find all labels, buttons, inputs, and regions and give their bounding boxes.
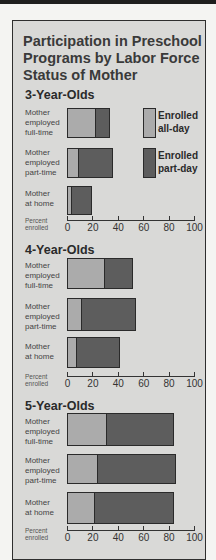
row-label-line: full-time — [25, 281, 67, 291]
row-label-line: Mother — [25, 342, 67, 352]
axis-title-line: Percent — [25, 373, 65, 380]
bar-segment-all-day — [68, 109, 96, 137]
legend-part-day-line2: part-day — [158, 162, 198, 175]
row-label: Motherat home — [25, 498, 67, 518]
row-label-line: full-time — [25, 437, 67, 447]
row-label: Motherat home — [25, 189, 67, 209]
row-label-line: employed — [25, 271, 67, 281]
chart-title: Participation in Preschool Programs by L… — [23, 33, 203, 84]
legend-part-day-line1: Enrolled — [158, 149, 198, 162]
bar-segment-all-day — [68, 149, 79, 177]
bar-segment-all-day — [68, 493, 95, 523]
row-label-line: full-time — [25, 128, 67, 138]
bar-segment-part-day — [72, 187, 91, 214]
x-axis-tick — [92, 372, 93, 377]
row-label-line: Mother — [25, 261, 67, 271]
row-label-line: employed — [25, 427, 67, 437]
bar-segment-all-day — [68, 259, 105, 288]
x-axis-tick — [169, 526, 170, 531]
x-axis-tick-label: 100 — [186, 222, 203, 233]
axis-title: Percentenrolled — [25, 217, 65, 231]
axis-title-line: Percent — [25, 217, 65, 224]
row-label-line: at home — [25, 508, 67, 518]
row-label-line: Mother — [25, 456, 67, 466]
row-label: Motheremployedpart-time — [25, 456, 67, 486]
x-axis-tick — [194, 372, 195, 377]
stacked-bar — [67, 492, 174, 524]
bar-segment-part-day — [79, 149, 112, 177]
x-axis-tick — [118, 216, 119, 221]
bar-segment-all-day — [68, 299, 82, 330]
x-axis-tick-label: 40 — [113, 378, 124, 389]
bar-segment-part-day — [105, 259, 132, 288]
row-label: Motheremployedfull-time — [25, 261, 67, 291]
x-axis-tick-label: 40 — [113, 532, 124, 543]
row-label: Motheremployedfull-time — [25, 417, 67, 447]
group-heading: 5-Year-Olds — [25, 399, 94, 413]
x-axis-tick — [92, 526, 93, 531]
row-label-line: employed — [25, 466, 67, 476]
stacked-bar — [67, 413, 174, 446]
row-label: Motherat home — [25, 342, 67, 362]
top-rule — [0, 0, 216, 4]
row-label: Motheremployedpart-time — [25, 148, 67, 178]
x-axis-tick — [143, 526, 144, 531]
group-heading: 4-Year-Olds — [25, 243, 94, 257]
bar-segment-part-day — [77, 338, 119, 367]
legend-swatch-part-day — [143, 148, 156, 178]
x-axis-tick-label: 100 — [186, 378, 203, 389]
stacked-bar — [67, 337, 120, 368]
x-axis-tick-label: 0 — [65, 378, 71, 389]
x-axis-tick-label: 0 — [65, 532, 71, 543]
stacked-bar — [67, 108, 110, 138]
x-axis-tick-label: 80 — [164, 532, 175, 543]
x-axis-tick — [194, 216, 195, 221]
row-label: Motheremployedfull-time — [25, 108, 67, 138]
stacked-bar — [67, 186, 92, 215]
stacked-bar — [67, 148, 113, 178]
legend-all-day-line2: all-day — [158, 122, 198, 135]
x-axis-tick-label: 80 — [164, 222, 175, 233]
bar-segment-part-day — [96, 109, 109, 137]
x-axis-tick-label: 100 — [186, 532, 203, 543]
row-label-line: employed — [25, 312, 67, 322]
legend-label-part-day: Enrolled part-day — [158, 149, 198, 175]
row-label-line: part-time — [25, 322, 67, 332]
x-axis-line — [67, 376, 195, 377]
x-axis-tick — [67, 526, 68, 531]
row-label-line: at home — [25, 352, 67, 362]
row-label-line: Mother — [25, 302, 67, 312]
axis-title: Percentenrolled — [25, 527, 65, 541]
x-axis-tick — [92, 216, 93, 221]
x-axis-tick — [118, 372, 119, 377]
row-label-line: part-time — [25, 476, 67, 486]
x-axis-tick-label: 0 — [65, 222, 71, 233]
axis-title-line: Percent — [25, 527, 65, 534]
axis-title-line: enrolled — [25, 224, 65, 231]
group-heading: 3-Year-Olds — [25, 88, 94, 102]
stacked-bar — [67, 454, 176, 484]
bar-segment-part-day — [82, 299, 135, 330]
stacked-bar — [67, 298, 136, 331]
bar-segment-part-day — [95, 493, 173, 523]
axis-title-line: enrolled — [25, 380, 65, 387]
x-axis-tick — [194, 526, 195, 531]
row-label-line: at home — [25, 199, 67, 209]
row-label-line: Mother — [25, 498, 67, 508]
x-axis-tick — [143, 216, 144, 221]
row-label-line: Mother — [25, 189, 67, 199]
x-axis-tick — [67, 372, 68, 377]
bar-segment-part-day — [98, 455, 175, 483]
row-label-line: Mother — [25, 108, 67, 118]
bar-segment-part-day — [107, 414, 173, 445]
row-label: Motheremployedpart-time — [25, 302, 67, 332]
x-axis-tick-label: 20 — [87, 532, 98, 543]
x-axis-tick-label: 80 — [164, 378, 175, 389]
x-axis-tick-label: 40 — [113, 222, 124, 233]
row-label-line: part-time — [25, 168, 67, 178]
row-label-line: employed — [25, 158, 67, 168]
bar-segment-all-day — [68, 414, 107, 445]
x-axis-tick — [169, 372, 170, 377]
x-axis-tick-label: 60 — [138, 532, 149, 543]
bar-segment-all-day — [68, 338, 77, 367]
